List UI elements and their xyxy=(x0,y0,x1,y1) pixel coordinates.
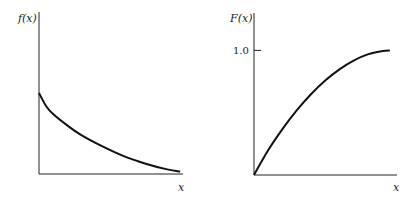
density-chart: f(x) x xyxy=(17,12,185,194)
y-tick-label-1.0: 1.0 xyxy=(233,45,249,56)
x-axis-label: x xyxy=(393,181,400,194)
cdf-curve xyxy=(254,50,390,175)
density-curve xyxy=(39,93,180,172)
x-axis-label: x xyxy=(178,181,185,194)
y-axis-label: f(x) xyxy=(17,12,37,25)
charts-figure: f(x) x F(x) x 1.0 xyxy=(0,0,412,199)
y-axis-label: F(x) xyxy=(229,12,252,25)
cdf-chart: F(x) x 1.0 xyxy=(229,12,400,194)
